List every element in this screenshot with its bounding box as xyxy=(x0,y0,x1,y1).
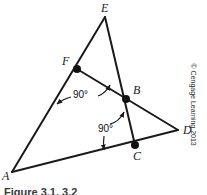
leader-right-angle-C-to-AD xyxy=(104,136,105,150)
leader-right-angle-F-to-FB xyxy=(98,85,110,96)
leader-lines-group xyxy=(57,85,124,150)
copyright-notice: © Cengage Learning 2013 xyxy=(190,64,197,140)
angle-label-right-angle-at-C: 90° xyxy=(98,124,113,134)
vertex-dot-C xyxy=(131,141,139,149)
vertex-label-F: F xyxy=(62,55,69,67)
segments-group xyxy=(12,17,178,172)
segment-A-E xyxy=(12,17,105,172)
vertex-label-E: E xyxy=(101,2,108,14)
vertex-label-C: C xyxy=(133,150,141,162)
segment-A-D xyxy=(12,130,178,172)
geometry-canvas xyxy=(0,0,207,195)
leader-right-angle-F-to-AE xyxy=(57,97,71,104)
figure-caption: Figure 3.1, 3.2 xyxy=(4,188,134,195)
vertex-dot-F xyxy=(73,65,81,73)
vertex-dots-group xyxy=(73,65,139,149)
vertex-label-B: B xyxy=(133,84,140,96)
angle-label-right-angle-at-F: 90° xyxy=(73,90,88,100)
vertex-label-A: A xyxy=(2,170,9,182)
vertex-dot-B xyxy=(122,95,130,103)
geometry-figure: E F B D C A 90° 90° © Cengage Learning 2… xyxy=(0,0,207,195)
